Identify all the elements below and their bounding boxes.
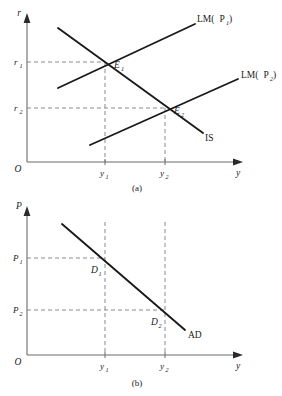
panel-a-ytick-r2: r 2 [14,103,23,115]
panel-b-ytick-p2: P 2 [12,305,23,317]
panel-a-vertical-axis-label: r [17,8,21,18]
panel-b-label-ad: AD [188,330,202,340]
panel-a-origin-label: O [15,164,22,174]
panel-a-label-lm-p1-var: P [220,14,225,24]
panel-b-point-d2: D 2 [150,317,162,329]
panel-a-xtick-y2: y 2 [159,168,169,180]
panel-a-label-lm-p1-close: ) [229,14,232,25]
panel-b-caption: (b) [132,378,143,388]
panel-a-horizontal-axis-label: y [235,168,241,178]
panel-a-label-lm-p1-open: LM( [197,14,214,25]
panel-a-xtick-y1-subscript: 1 [106,173,109,180]
panel-a-caption: (a) [132,183,142,193]
panel-b-xtick-y1: y 1 [99,361,109,373]
panel-b-point-d2-subscript: 2 [159,322,162,329]
panel-a-xtick-y1: y 1 [99,168,109,180]
panel-a-horizontal-axis-arrow-icon [233,159,243,166]
panel-a-ytick-r2-base: r [14,103,18,113]
panel-b-xtick-y1-base: y [99,361,104,371]
panel-b-point-d1: D 1 [90,265,102,277]
is-lm-ad-diagram: r y O LM( P 1 ) LM( P 2 ) [0,0,282,396]
panel-a: r y O LM( P 1 ) LM( P 2 ) [14,8,276,193]
panel-b-xtick-y1-subscript: 1 [106,366,109,373]
panel-a-label-lm-p2: LM( P 2 ) [241,70,276,82]
panel-a-ytick-r1: r 1 [14,57,23,69]
panel-a-ytick-r2-subscript: 2 [20,108,23,115]
panel-b-xtick-y2-subscript: 2 [166,366,169,373]
panel-a-point-e1-base: E [113,60,120,70]
panel-a-curve-lm-p2 [90,79,238,145]
panel-b-xtick-y2: y 2 [159,361,169,373]
panel-a-ytick-r1-subscript: 1 [20,62,23,69]
panel-a-point-e1-subscript: 1 [121,65,124,72]
panel-a-point-e2-subscript: 2 [181,111,184,118]
panel-a-vertical-axis-arrow-icon [24,13,31,23]
panel-a-xtick-y2-base: y [159,168,164,178]
panel-b-ytick-p1-base: P [12,253,19,263]
panel-b-point-d1-subscript: 1 [99,270,102,277]
panel-a-ytick-r1-base: r [14,57,18,67]
panel-b-ytick-p2-subscript: 2 [20,310,23,317]
panel-b-origin-label: O [15,357,22,367]
panel-a-label-is: IS [205,133,213,143]
panel-b: P y O AD D 1 D 2 P 1 [12,201,243,388]
panel-b-point-d2-base: D [150,317,158,327]
panel-a-xtick-y1-base: y [99,168,104,178]
panel-a-label-lm-p2-open: LM( [241,70,258,81]
panel-a-point-e2-base: E [173,106,180,116]
panel-a-label-lm-p1: LM( P 1 ) [197,14,232,26]
panel-b-ytick-p1-subscript: 1 [20,258,23,265]
panel-b-curve-ad [62,224,185,330]
panel-b-xtick-y2-base: y [159,361,164,371]
panel-b-horizontal-axis-label: y [235,361,241,371]
panel-b-vertical-axis-label: P [15,201,22,211]
panel-b-ytick-p1: P 1 [12,253,23,265]
figure-root: r y O LM( P 1 ) LM( P 2 ) [0,0,282,396]
panel-b-horizontal-axis-arrow-icon [233,352,243,359]
panel-b-point-d1-base: D [90,265,98,275]
panel-a-label-lm-p2-close: ) [273,70,276,81]
panel-b-vertical-axis-arrow-icon [24,206,31,216]
panel-a-xtick-y2-subscript: 2 [166,173,169,180]
panel-b-ytick-p2-base: P [12,305,19,315]
panel-a-label-lm-p2-var: P [264,70,269,80]
